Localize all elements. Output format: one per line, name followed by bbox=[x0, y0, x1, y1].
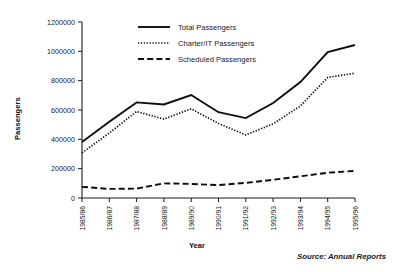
y-tick-label: 0 bbox=[71, 194, 75, 203]
legend-label: Total Passengers bbox=[178, 23, 236, 32]
x-tick-label: 1990/91 bbox=[215, 206, 222, 231]
y-tick-label: 600000 bbox=[51, 106, 75, 115]
legend-label: Scheduled Passengers bbox=[178, 55, 256, 64]
y-axis-title: Passengers bbox=[13, 97, 22, 140]
y-tick-label: 800000 bbox=[51, 76, 75, 85]
y-tick-label: 200000 bbox=[51, 164, 75, 173]
x-axis-title: Year bbox=[189, 241, 205, 250]
series-layer bbox=[82, 45, 355, 189]
y-tick-label: 400000 bbox=[51, 135, 75, 144]
x-tick-label: 1991/92 bbox=[242, 206, 249, 231]
x-tick-label: 1995/96 bbox=[352, 206, 359, 231]
y-axis-ticks: 020000040000060000080000010000001200000 bbox=[47, 18, 82, 203]
passenger-line-chart: 020000040000060000080000010000001200000 … bbox=[0, 0, 395, 272]
legend-label: Charter/IT Passengers bbox=[178, 39, 254, 48]
chart-canvas: 020000040000060000080000010000001200000 … bbox=[0, 0, 395, 272]
source-annotation: Source: Annual Reports bbox=[297, 252, 387, 261]
y-tick-label: 1200000 bbox=[47, 18, 75, 27]
x-tick-label: 1994/95 bbox=[324, 206, 331, 231]
x-tick-label: 1988/89 bbox=[161, 206, 168, 231]
x-axis-ticks: 1985/861986/871987/881988/891989/901990/… bbox=[79, 198, 359, 231]
x-tick-label: 1992/93 bbox=[270, 206, 277, 231]
x-tick-label: 1985/86 bbox=[79, 206, 86, 231]
x-tick-label: 1989/90 bbox=[188, 206, 195, 231]
x-tick-label: 1986/87 bbox=[106, 206, 113, 231]
chart-legend: Total PassengersCharter/IT PassengersSch… bbox=[138, 23, 256, 64]
series-line-scheduled-passengers bbox=[82, 171, 355, 189]
y-tick-label: 1000000 bbox=[47, 47, 75, 56]
x-tick-label: 1987/88 bbox=[133, 206, 140, 231]
x-tick-label: 1993/94 bbox=[297, 206, 304, 231]
